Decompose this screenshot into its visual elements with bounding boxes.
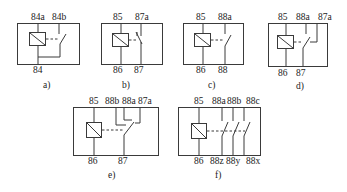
- contact-no-icon: [233, 122, 239, 136]
- relay-housing: [179, 108, 261, 156]
- pin-label: 88b: [105, 96, 120, 106]
- pin-label: 84: [33, 65, 43, 75]
- pin-label: 88a: [212, 96, 227, 106]
- relay-housing: [102, 24, 163, 65]
- pin-label: 84b: [52, 12, 67, 22]
- pin-label: 87a: [135, 12, 150, 22]
- contact-no-icon: [60, 34, 66, 44]
- panel-caption: b): [122, 80, 130, 91]
- pin-label: 88b: [227, 96, 242, 106]
- pin-label: 88c: [246, 96, 260, 106]
- pin-label: 84a: [31, 12, 46, 22]
- panel-c: 85 88a 86 88 c): [184, 12, 244, 91]
- pin-label: 86: [88, 156, 98, 166]
- pin-label: 86: [194, 156, 204, 166]
- panel-caption: a): [43, 80, 50, 91]
- pin-label: 86: [196, 65, 206, 75]
- panel-caption: d): [296, 81, 304, 92]
- pin-label: 88z: [210, 156, 224, 166]
- contact-no-icon: [244, 122, 250, 136]
- contact-changeover-icon: [303, 37, 310, 48]
- panel-caption: c): [208, 80, 215, 91]
- panel-e: 85 88b 88a 87a 86 87 e): [74, 96, 159, 181]
- pin-label: 88: [218, 65, 228, 75]
- pin-label: 86: [278, 68, 288, 78]
- pin-label: 87a: [138, 96, 153, 106]
- pin-label: 85: [278, 12, 288, 22]
- pin-label: 88x: [246, 156, 261, 166]
- pin-label: 85: [194, 96, 204, 106]
- pin-label: 86: [113, 65, 123, 75]
- pin-label: 88y: [226, 156, 241, 166]
- pin-label: 87: [118, 156, 128, 166]
- pin-label: 85: [89, 96, 99, 106]
- relay-diagram-figure: 84a 84b 84 a) 85 87a 86 87 b) 85 88a 86: [0, 0, 347, 192]
- pin-label: 88a: [122, 96, 137, 106]
- relay-housing: [18, 24, 80, 65]
- panel-caption: e): [108, 170, 115, 181]
- contact-no-icon: [225, 35, 231, 46]
- panel-a: 84a 84b 84 a): [18, 12, 80, 91]
- panel-d: 85 88a 87a 86 87 d): [269, 12, 333, 92]
- contact-no-icon: [222, 122, 228, 136]
- panel-b: 85 87a 86 87 b): [102, 12, 163, 91]
- pin-label: 85: [113, 12, 123, 22]
- panel-caption: f): [215, 170, 221, 181]
- relay-housing: [184, 24, 244, 65]
- pin-label: 87: [134, 65, 144, 75]
- pin-label: 87a: [318, 12, 333, 22]
- pin-label: 85: [196, 12, 206, 22]
- pin-label: 88a: [296, 12, 311, 22]
- contact-changeover-icon: [124, 122, 134, 135]
- panel-f: 85 88a 88b 88c 86 88z 88y 88x f): [179, 96, 261, 181]
- pin-label: 88a: [218, 12, 233, 22]
- pin-label: 87: [296, 68, 306, 78]
